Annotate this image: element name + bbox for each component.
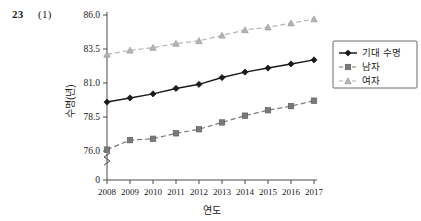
data-point-marker — [242, 113, 247, 118]
line-chart: 076.078.581.083.586.0 200820092010201120… — [0, 0, 421, 221]
y-axis-title: 수명(년) — [65, 84, 76, 118]
x-tick-label: 2011 — [167, 187, 185, 197]
series-line — [107, 19, 314, 54]
x-tick-label: 2009 — [121, 187, 140, 197]
data-point-marker — [311, 57, 317, 63]
legend-label: 여자 — [362, 75, 380, 86]
data-point-marker — [173, 131, 178, 136]
data-point-marker — [345, 64, 350, 69]
data-series-group — [104, 16, 317, 152]
data-point-marker — [219, 32, 225, 38]
data-point-marker — [265, 65, 271, 71]
series-1 — [104, 57, 317, 105]
x-tick-label: 2017 — [305, 187, 324, 197]
figure-container: 23 (1) 076.078.581.083.586.0 20082009201… — [0, 0, 421, 221]
series-2 — [104, 98, 316, 152]
x-tick-label: 2013 — [213, 187, 232, 197]
y-tick-label: 0 — [95, 175, 100, 185]
chart-legend: 기대 수명남자여자 — [333, 41, 417, 88]
legend-label: 남자 — [362, 61, 380, 72]
x-tick-label: 2015 — [259, 187, 278, 197]
data-point-marker — [288, 61, 294, 67]
series-line — [107, 60, 314, 102]
y-tick-label: 81.0 — [83, 78, 100, 88]
series-3 — [104, 16, 317, 57]
data-point-marker — [242, 69, 248, 75]
data-point-marker — [219, 74, 225, 80]
data-point-marker — [127, 137, 132, 142]
data-point-marker — [173, 85, 179, 91]
y-tick-label: 78.5 — [83, 112, 100, 122]
x-tick-group: 2008200920102011201220132014201520162017 — [98, 180, 324, 197]
y-tick-group: 076.078.581.083.586.0 — [83, 10, 107, 185]
x-tick-label: 2008 — [98, 187, 117, 197]
x-tick-label: 2012 — [190, 187, 208, 197]
data-point-marker — [265, 108, 270, 113]
y-tick-label: 86.0 — [83, 10, 100, 20]
x-tick-label: 2010 — [144, 187, 163, 197]
data-point-marker — [127, 95, 133, 101]
data-point-marker — [104, 147, 109, 152]
data-point-marker — [311, 98, 316, 103]
y-tick-label: 76.0 — [83, 146, 100, 156]
data-point-marker — [150, 136, 155, 141]
series-line — [107, 101, 314, 150]
x-tick-label: 2016 — [282, 187, 301, 197]
data-point-marker — [288, 103, 293, 108]
data-point-marker — [219, 120, 224, 125]
data-point-marker — [311, 16, 317, 22]
data-point-marker — [150, 91, 156, 97]
chart-axes — [104, 12, 317, 180]
data-point-marker — [242, 27, 248, 33]
y-tick-label: 83.5 — [83, 44, 100, 54]
data-point-marker — [196, 81, 202, 87]
legend-label: 기대 수명 — [362, 47, 401, 58]
data-point-marker — [288, 20, 294, 26]
data-point-marker — [104, 99, 110, 105]
x-axis-title: 연도 — [203, 205, 221, 216]
data-point-marker — [196, 127, 201, 132]
y-axis-break-icon — [104, 153, 110, 165]
x-tick-label: 2014 — [236, 187, 255, 197]
